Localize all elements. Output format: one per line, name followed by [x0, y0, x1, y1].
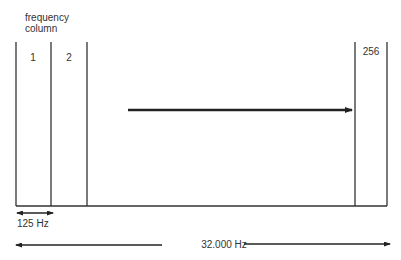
- total-range-label: 32.000 Hz: [201, 239, 247, 250]
- bin-width-label: 125 Hz: [17, 218, 49, 229]
- frequency-column-diagram: frequency column 1 2 256 125 Hz 32.000 H…: [0, 0, 401, 260]
- title-line-2: column: [25, 23, 57, 34]
- title-line-1: frequency: [25, 12, 69, 23]
- column-label-256: 256: [363, 46, 380, 57]
- column-label-2: 2: [66, 52, 72, 63]
- column-label-1: 1: [30, 52, 36, 63]
